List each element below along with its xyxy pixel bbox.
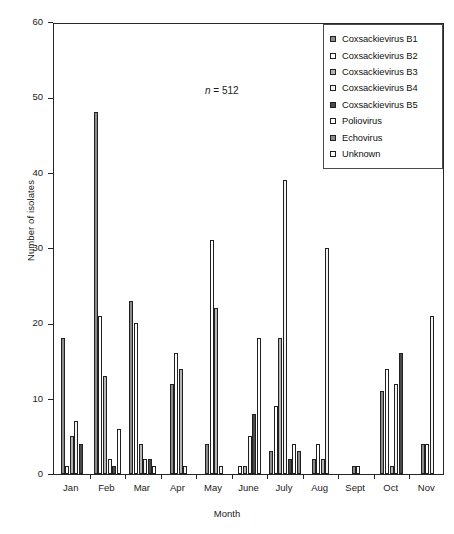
legend-swatch-icon <box>330 69 336 75</box>
bar <box>70 436 74 474</box>
x-tick-mark <box>374 474 375 479</box>
x-tick-mark <box>232 474 233 479</box>
x-tick-label: May <box>204 482 222 493</box>
legend-item: Coxsackievirus B4 <box>330 80 437 96</box>
x-axis-title: Month <box>0 508 454 519</box>
bar <box>399 353 403 474</box>
bar <box>312 459 316 474</box>
legend-swatch-icon <box>330 53 336 59</box>
bar <box>129 301 133 474</box>
bar <box>297 451 301 474</box>
x-tick-mark <box>90 474 91 479</box>
x-tick-mark <box>267 474 268 479</box>
legend-item: Coxsackievirus B1 <box>330 31 437 47</box>
bar <box>148 459 152 474</box>
legend-label: Coxsackievirus B3 <box>342 67 418 77</box>
x-tick-label: June <box>238 482 259 493</box>
bar <box>214 308 218 474</box>
bar <box>61 338 65 474</box>
n-value: = 512 <box>213 85 238 96</box>
bar <box>394 384 398 474</box>
x-tick-mark <box>125 474 126 479</box>
bar <box>174 353 178 474</box>
bar <box>430 316 434 474</box>
bar <box>283 180 287 474</box>
bar <box>356 466 360 474</box>
legend-swatch-icon <box>330 151 336 157</box>
legend-swatch-icon <box>330 36 336 42</box>
bar <box>98 316 102 474</box>
legend: Coxsackievirus B1Coxsackievirus B2Coxsac… <box>323 24 443 169</box>
bar <box>316 444 320 474</box>
y-axis-title: Number of isolates <box>25 131 36 311</box>
bar <box>94 112 98 474</box>
x-tick-label: Jan <box>63 482 78 493</box>
bar <box>385 369 389 474</box>
legend-swatch-icon <box>330 135 336 141</box>
y-tick-label: 60 <box>32 16 43 27</box>
legend-item: Coxsackievirus B5 <box>330 97 437 113</box>
bar <box>112 466 116 474</box>
bar <box>134 323 138 474</box>
bar <box>243 466 247 474</box>
bar <box>238 466 242 474</box>
legend-label: Unknown <box>342 149 380 159</box>
x-tick-label: Mar <box>134 482 150 493</box>
bar <box>390 466 394 474</box>
y-tick-label: 20 <box>32 317 43 328</box>
bar <box>425 444 429 474</box>
x-tick-label: Feb <box>98 482 114 493</box>
bar <box>274 406 278 474</box>
bar <box>79 444 83 474</box>
bar <box>183 466 187 474</box>
y-tick-label: 0 <box>38 468 43 479</box>
bar <box>179 369 183 474</box>
x-tick-label: Aug <box>311 482 328 493</box>
y-tick-label: 10 <box>32 393 43 404</box>
legend-label: Echovirus <box>342 133 382 143</box>
bar <box>219 466 223 474</box>
y-tick-label: 30 <box>32 242 43 253</box>
legend-item: Poliovirus <box>330 113 437 129</box>
y-tick-label: 50 <box>32 91 43 102</box>
x-tick-mark <box>196 474 197 479</box>
legend-swatch-icon <box>330 118 336 124</box>
bar <box>139 444 143 474</box>
legend-label: Coxsackievirus B2 <box>342 51 418 61</box>
bar <box>269 451 273 474</box>
bar <box>288 459 292 474</box>
bar <box>257 338 261 474</box>
legend-item: Unknown <box>330 146 437 162</box>
bar <box>278 338 282 474</box>
legend-item: Coxsackievirus B2 <box>330 47 437 63</box>
legend-label: Poliovirus <box>342 116 382 126</box>
bar <box>248 436 252 474</box>
bar <box>380 391 384 474</box>
legend-item: Coxsackievirus B3 <box>330 64 437 80</box>
bar <box>143 459 147 474</box>
chart-page: Number of isolates 0102030405060 JanFebM… <box>0 0 454 534</box>
bar <box>117 429 121 474</box>
n-symbol: n <box>205 85 211 96</box>
x-tick-label: Apr <box>170 482 185 493</box>
bar <box>74 421 78 474</box>
x-tick-label: Oct <box>383 482 398 493</box>
bar <box>103 376 107 474</box>
x-tick-label: Nov <box>418 482 435 493</box>
bar <box>65 466 69 474</box>
bar <box>108 459 112 474</box>
x-tick-label: July <box>276 482 293 493</box>
bar <box>292 444 296 474</box>
x-tick-mark <box>303 474 304 479</box>
x-tick-mark <box>409 474 410 479</box>
bar <box>325 248 329 474</box>
bar <box>421 444 425 474</box>
bar <box>152 466 156 474</box>
legend-swatch-icon <box>330 102 336 108</box>
bar <box>170 384 174 474</box>
x-tick-mark <box>338 474 339 479</box>
bar <box>321 459 325 474</box>
bar <box>252 414 256 474</box>
legend-swatch-icon <box>330 85 336 91</box>
x-tick-label: Sept <box>345 482 365 493</box>
